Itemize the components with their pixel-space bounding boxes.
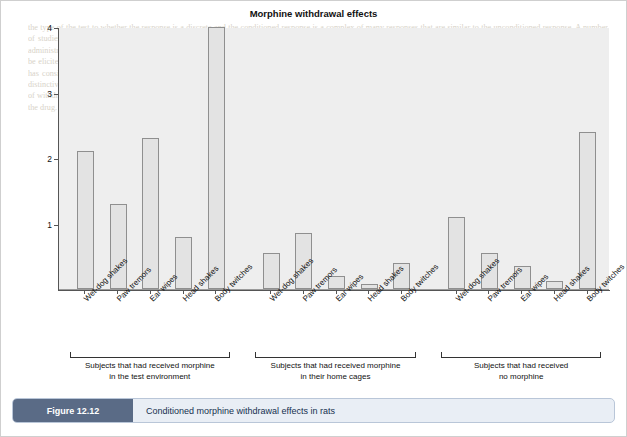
bar — [77, 151, 94, 289]
group-bracket — [70, 352, 230, 358]
figure-caption: Figure 12.12 Conditioned morphine withdr… — [12, 398, 615, 423]
y-tick-mark — [54, 159, 58, 160]
group-label-line: in the test environment — [50, 372, 250, 383]
bar — [263, 253, 280, 289]
bar — [175, 237, 192, 289]
group-bracket — [441, 352, 601, 358]
y-axis — [58, 28, 59, 291]
y-tick-mark — [54, 28, 58, 29]
group-label-line: in their home cages — [235, 372, 435, 383]
bar — [448, 217, 465, 289]
group-label-line: Subjects that had received morphine — [235, 361, 435, 372]
chart-figure: 1234 Mean number observed Wet-dog shakes… — [0, 0, 627, 437]
group-label: Subjects that had received morphinein th… — [235, 361, 435, 382]
group-label-line: no morphine — [421, 372, 621, 383]
group-bracket — [255, 352, 415, 358]
group-label: Subjects that had receivedno morphine — [421, 361, 621, 382]
bar — [208, 27, 225, 289]
plot-area — [58, 28, 609, 290]
group-label: Subjects that had received morphinein th… — [50, 361, 250, 382]
figure-caption-text: Conditioned morphine withdrawal effects … — [146, 399, 335, 422]
group-label-line: Subjects that had received morphine — [50, 361, 250, 372]
y-tick-mark — [54, 94, 58, 95]
y-tick-mark — [54, 225, 58, 226]
chart-title: Morphine withdrawal effects — [0, 8, 627, 19]
figure-number-badge: Figure 12.12 — [13, 399, 133, 422]
group-label-line: Subjects that had received — [421, 361, 621, 372]
